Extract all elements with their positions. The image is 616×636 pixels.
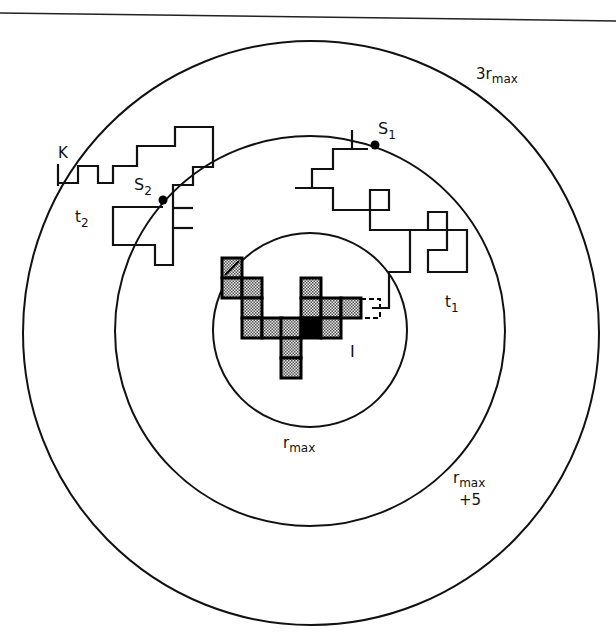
label-middle-rmax: rmax [453, 469, 485, 490]
random-walk-t1-branch [312, 149, 368, 188]
cluster-cell [242, 298, 262, 318]
point-s1 [371, 141, 380, 150]
diagram-canvas: K S2 S1 t2 t1 I rmax rmax +5 3rmax [0, 0, 616, 636]
label-cluster-i: I [350, 342, 355, 361]
cluster-cell [281, 338, 301, 358]
cluster-cell [242, 318, 262, 338]
label-k: K [58, 144, 69, 162]
cluster-cell [341, 298, 361, 318]
label-inner-rmax: rmax [283, 434, 315, 455]
cluster-cell [281, 318, 301, 338]
cluster-seed-cell [301, 318, 321, 338]
cluster [222, 258, 361, 378]
cluster-cell [301, 278, 321, 298]
point-s2 [159, 196, 168, 205]
cluster-cell [262, 318, 282, 338]
cluster-cell [281, 358, 301, 378]
label-t1: t1 [445, 293, 459, 315]
label-outer-3rmax: 3rmax [476, 65, 518, 86]
label-s2: S2 [134, 175, 152, 198]
label-s1: S1 [378, 119, 396, 142]
cluster-cell [321, 298, 341, 318]
label-middle-plus5: +5 [459, 491, 481, 509]
cluster-cell [242, 278, 262, 298]
random-walk-t2 [58, 127, 213, 265]
cluster-cell [222, 278, 242, 298]
page-top-rule [0, 13, 616, 21]
cluster-cell [321, 318, 341, 338]
label-t2: t2 [75, 208, 89, 230]
cluster-cell [301, 298, 321, 318]
